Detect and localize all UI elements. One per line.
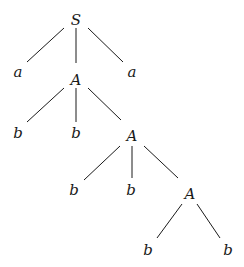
- tree-node-S: S: [71, 11, 81, 29]
- tree-node-b: b: [13, 124, 23, 142]
- tree-node-a: a: [14, 63, 23, 81]
- tree-edge: [84, 146, 120, 180]
- tree-node-b: b: [71, 124, 81, 142]
- parse-tree-diagram: SaAabbAbbAbb: [0, 0, 244, 267]
- tree-node-b: b: [223, 241, 233, 259]
- tree-node-b: b: [126, 181, 136, 199]
- tree-edges: [27, 28, 220, 238]
- tree-node-A: A: [69, 71, 82, 89]
- tree-node-a: a: [128, 63, 137, 81]
- tree-edge: [157, 204, 182, 238]
- tree-edge: [88, 88, 121, 120]
- tree-edge: [27, 88, 64, 122]
- tree-node-A: A: [125, 127, 138, 145]
- tree-edge: [144, 146, 178, 178]
- tree-node-b: b: [143, 241, 153, 259]
- tree-edge: [88, 28, 123, 62]
- tree-node-b: b: [69, 181, 79, 199]
- tree-edge: [27, 28, 64, 62]
- tree-nodes: SaAabbAbbAbb: [13, 11, 233, 259]
- tree-node-A: A: [183, 185, 196, 203]
- tree-edge: [197, 204, 220, 238]
